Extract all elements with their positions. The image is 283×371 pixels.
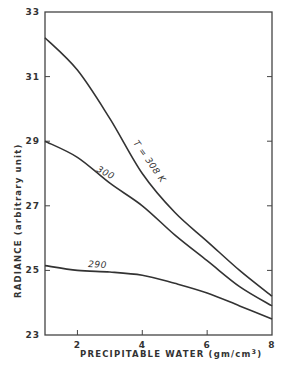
x-axis-ticks: 2468 [74,330,276,350]
y-tick-label: 25 [25,265,40,275]
y-axis-title: RADIANCE (arbitrary unit) [13,144,23,299]
curve-label-308: T = 308 K [131,138,168,185]
y-axis-ticks: 232527293133 [25,7,272,340]
curve-label-290: 290 [88,259,107,270]
chart: 232527293133 2468 T = 308 K 300 290 PREC… [0,0,283,371]
curve-290 [45,266,272,319]
y-tick-label: 23 [25,330,40,340]
y-tick-label: 27 [25,201,40,211]
y-tick-label: 29 [25,136,40,146]
y-tick-label: 33 [25,7,40,17]
x-axis-title: PRECIPITABLE WATER (gm/cm3) [80,348,262,359]
y-tick-label: 31 [25,72,40,82]
x-tick-label: 8 [268,340,275,350]
